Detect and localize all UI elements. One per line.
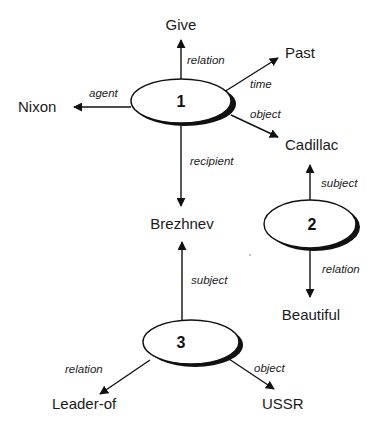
edge-label-object-3: object bbox=[254, 362, 285, 374]
concept-cadillac: Cadillac bbox=[285, 136, 339, 153]
node-2: 2 bbox=[264, 200, 360, 251]
stray-dot bbox=[249, 254, 251, 256]
edge-label-relation-2: relation bbox=[322, 263, 360, 275]
edge-label-subject-3: subject bbox=[191, 274, 228, 286]
node-1: 1 bbox=[131, 79, 236, 126]
concept-ussr: USSR bbox=[262, 395, 304, 412]
concept-give: Give bbox=[166, 16, 197, 33]
concept-past: Past bbox=[285, 44, 316, 61]
edge-label-object-1: object bbox=[250, 108, 281, 120]
node-1-label: 1 bbox=[177, 93, 186, 110]
node-2-label: 2 bbox=[308, 216, 317, 233]
concept-leader-of: Leader-of bbox=[52, 395, 117, 412]
node-3-ellipse bbox=[143, 320, 239, 364]
semantic-network-diagram: 1 2 3 Give Nixon Past Cadillac Brezhnev … bbox=[0, 0, 389, 435]
concept-brezhnev: Brezhnev bbox=[150, 215, 214, 232]
edge-label-relation-1: relation bbox=[187, 54, 225, 66]
concept-beautiful: Beautiful bbox=[282, 306, 340, 323]
node-3: 3 bbox=[143, 320, 243, 367]
edge-3-leader-of bbox=[100, 360, 150, 394]
edge-label-agent: agent bbox=[89, 87, 119, 99]
edge-label-time: time bbox=[250, 78, 272, 90]
concept-nixon: Nixon bbox=[18, 98, 56, 115]
edge-label-subject-2: subject bbox=[321, 177, 358, 189]
edge-label-recipient: recipient bbox=[190, 155, 234, 167]
edge-label-relation-3: relation bbox=[65, 363, 103, 375]
node-3-label: 3 bbox=[177, 334, 186, 351]
